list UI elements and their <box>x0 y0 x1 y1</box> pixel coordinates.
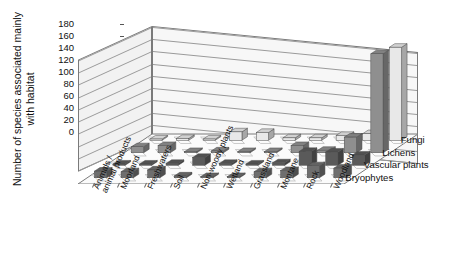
x-axis-label: Rock <box>305 169 322 191</box>
x-axis-labels: Animals /animal productsMoorlandFreshwat… <box>0 0 464 268</box>
legend-label-vascular-plants: Vascular plants <box>364 159 429 170</box>
x-axis-label: Montane <box>279 156 301 190</box>
legend-label-fungi: Fungi <box>401 134 425 145</box>
legend-label-bryophytes: Bryophytes <box>345 172 393 183</box>
x-axis-label: Soil <box>172 174 186 191</box>
x-axis-label: Freshwaters <box>146 144 174 191</box>
x-axis-label: Wetland <box>225 158 246 190</box>
chart-root: Number of species associated mainly with… <box>0 0 464 268</box>
legend-label-lichens: Lichens <box>382 147 415 158</box>
x-axis-label: Grassland <box>252 151 277 191</box>
